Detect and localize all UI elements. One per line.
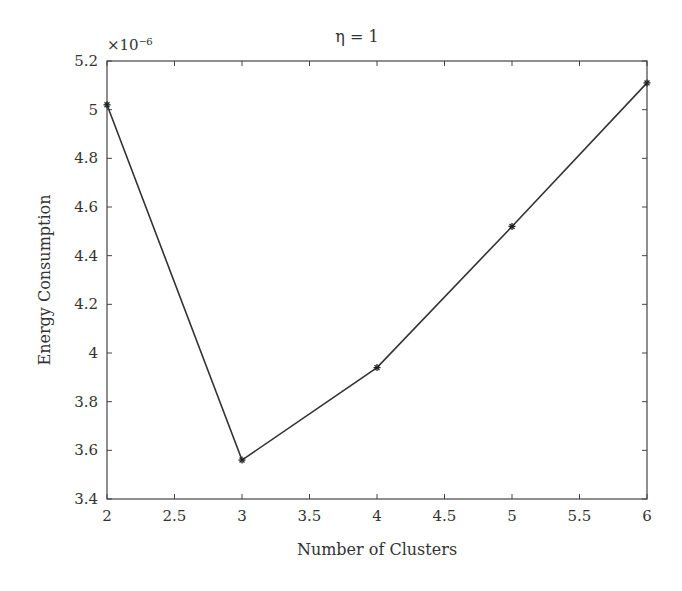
x-tick-label: 4.5 [433,507,457,525]
x-axis-label: Number of Clusters [297,540,457,559]
y-multiplier: ×10⁻⁶ [107,36,153,54]
y-tick-label: 4.4 [74,247,98,265]
y-tick-label: 3.6 [74,441,98,459]
y-tick-label: 4 [88,344,98,362]
x-tick-label: 2.5 [163,507,187,525]
y-tick-label: 3.4 [74,490,98,508]
line-chart: 22.533.544.555.563.43.63.844.24.44.64.85… [0,0,682,591]
x-tick-label: 3 [237,507,247,525]
asterisk-marker [644,79,651,86]
y-tick-label: 5.2 [74,52,98,70]
x-tick-label: 5.5 [568,507,592,525]
asterisk-marker [509,223,516,230]
y-tick-label: 5 [88,101,98,119]
data-series [104,79,651,463]
plot-frame [107,61,647,499]
asterisk-marker [374,364,381,371]
y-tick-label: 4.8 [74,149,98,167]
asterisk-marker [239,457,246,464]
x-tick-label: 6 [642,507,652,525]
asterisk-marker [104,101,111,108]
y-tick-label: 4.6 [74,198,98,216]
x-tick-label: 2 [102,507,112,525]
chart-title: η = 1 [335,27,378,46]
figure: 22.533.544.555.563.43.63.844.24.44.64.85… [0,0,682,591]
y-axis-label: Energy Consumption [35,194,54,365]
x-tick-label: 4 [372,507,382,525]
x-tick-label: 3.5 [298,507,322,525]
y-tick-label: 3.8 [74,393,98,411]
plot-axes: 22.533.544.555.563.43.63.844.24.44.64.85… [74,52,652,525]
series-line [107,83,647,460]
y-tick-label: 4.2 [74,295,98,313]
x-tick-label: 5 [507,507,517,525]
